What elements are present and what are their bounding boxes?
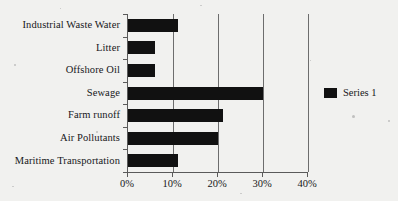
x-axis-tick xyxy=(262,173,263,177)
x-axis-tick-label: 40% xyxy=(297,178,316,190)
bar-maritime-transportation xyxy=(128,154,178,167)
category-label-row: Industrial Waste Water xyxy=(0,14,124,37)
category-label: Litter xyxy=(96,43,120,54)
category-label-row: Offshore Oil xyxy=(0,59,124,82)
bars-layer xyxy=(128,14,308,172)
category-axis: Industrial Waste Water Litter Offshore O… xyxy=(0,14,124,172)
gridline xyxy=(308,14,309,172)
scan-artifact xyxy=(352,115,355,118)
x-axis-tick-label: 10% xyxy=(162,178,181,190)
bar-industrial-waste-water xyxy=(128,19,178,32)
x-axis-tick xyxy=(127,173,128,177)
category-label: Air Pollutants xyxy=(60,133,120,144)
bar-row xyxy=(128,59,308,82)
bar-row xyxy=(128,14,308,37)
bar-sewage xyxy=(128,87,263,100)
legend-label-series-1: Series 1 xyxy=(343,88,377,99)
category-label: Offshore Oil xyxy=(66,65,120,76)
bar-row xyxy=(128,37,308,60)
plot-area xyxy=(127,14,308,172)
scan-artifact xyxy=(200,5,202,6)
bar-row xyxy=(128,82,308,105)
bar-chart: Industrial Waste Water Litter Offshore O… xyxy=(0,0,398,201)
bar-offshore-oil xyxy=(128,64,155,77)
x-axis-tick-label: 20% xyxy=(207,178,226,190)
bar-litter xyxy=(128,41,155,54)
bar-row xyxy=(128,104,308,127)
legend: Series 1 xyxy=(324,88,377,99)
x-axis-tick-label: 0% xyxy=(120,178,134,190)
x-axis-tick xyxy=(172,173,173,177)
x-axis-ticks xyxy=(127,173,308,177)
category-label-row: Air Pollutants xyxy=(0,127,124,150)
x-axis-tick-labels: 0%10%20%30%40% xyxy=(127,178,308,194)
category-label: Farm runoff xyxy=(68,110,120,121)
category-label-row: Maritime Transportation xyxy=(0,149,124,172)
scan-artifact xyxy=(388,120,390,122)
bar-air-pollutants xyxy=(128,132,218,145)
legend-swatch-series-1 xyxy=(324,88,337,98)
category-label-row: Litter xyxy=(0,37,124,60)
bar-row xyxy=(128,149,308,172)
category-label-row: Sewage xyxy=(0,82,124,105)
scan-artifact xyxy=(60,8,61,9)
scan-artifact xyxy=(12,186,14,187)
category-label: Sewage xyxy=(87,88,120,99)
bar-farm-runoff xyxy=(128,109,223,122)
scan-artifact xyxy=(310,60,311,61)
category-label: Industrial Waste Water xyxy=(22,20,120,31)
x-axis-tick xyxy=(217,173,218,177)
x-axis-tick-label: 30% xyxy=(252,178,271,190)
category-label: Maritime Transportation xyxy=(15,156,120,167)
bar-row xyxy=(128,127,308,150)
x-axis-tick xyxy=(307,173,308,177)
category-label-row: Farm runoff xyxy=(0,104,124,127)
